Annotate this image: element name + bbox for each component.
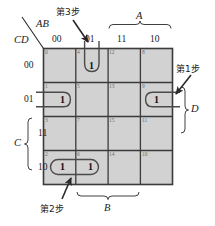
bracket-label-B: B	[104, 202, 110, 213]
cell-index-1: 1	[45, 83, 48, 89]
row-header-2: 11	[38, 128, 47, 138]
column-header-3: 10	[150, 34, 160, 44]
cell-value-2: 1	[60, 161, 65, 172]
cell-index-3: 3	[45, 117, 48, 123]
cell-index-11: 11	[142, 117, 147, 123]
columns-variable-label: AB	[36, 18, 49, 29]
cell-index-9: 9	[142, 83, 145, 89]
column-header-0: 00	[52, 34, 62, 44]
kmap-diagram: AB CD 00 01 11 10 00 01 11 10 0 4 12 8 1…	[0, 0, 215, 226]
annotation-step3: 第3步	[56, 5, 80, 18]
annotation-step1: 第1步	[176, 62, 200, 75]
row-header-0: 00	[24, 60, 34, 70]
annotation-step2: 第2步	[40, 202, 64, 215]
cell-index-14: 14	[109, 151, 115, 157]
bracket-label-D: D	[191, 103, 199, 114]
cell-index-10: 10	[142, 151, 148, 157]
cell-index-4: 4	[77, 49, 80, 55]
cell-value-1: 1	[60, 94, 65, 105]
bracket-label-A: A	[136, 10, 142, 21]
rows-variable-label: CD	[14, 34, 29, 45]
bracket-label-C: C	[14, 137, 21, 148]
cell-index-7: 7	[77, 117, 80, 123]
cell-index-8: 8	[142, 49, 145, 55]
cell-index-15: 15	[109, 117, 115, 123]
cell-value-4: 1	[89, 60, 94, 71]
cell-index-0: 0	[45, 49, 48, 55]
column-header-1: 01	[85, 34, 95, 44]
cell-index-12: 12	[109, 49, 115, 55]
row-header-3: 10	[38, 162, 48, 172]
row-header-1: 01	[24, 94, 34, 104]
cell-index-2: 2	[45, 151, 48, 157]
cell-index-13: 13	[109, 83, 115, 89]
cell-index-5: 5	[77, 83, 80, 89]
kmap-text-layer: AB CD 00 01 11 10 00 01 11 10 0 4 12 8 1…	[0, 0, 215, 226]
column-header-2: 11	[117, 34, 126, 44]
cell-value-9: 1	[154, 94, 159, 105]
cell-value-6: 1	[88, 161, 93, 172]
cell-index-6: 6	[77, 151, 80, 157]
